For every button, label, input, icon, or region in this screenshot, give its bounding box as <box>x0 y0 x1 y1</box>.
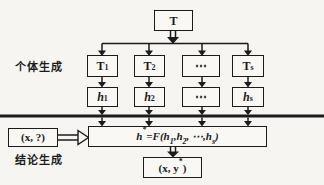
learner-2-subscript: 2 <box>151 95 155 103</box>
learner-1-subscript: 1 <box>104 95 108 103</box>
stage-label-individual-generation: 个体生成 <box>15 62 63 73</box>
subset-s-subscript: s <box>250 64 253 72</box>
trainer-to-learner-arrows <box>98 77 252 88</box>
learner-s-label: h <box>243 91 250 103</box>
learner-box-2: h2 <box>134 87 165 107</box>
subset-box-2: T2 <box>134 55 165 77</box>
input-sample-label: (x, ?) <box>21 132 45 143</box>
learner-ellipsis-label: ⋯ <box>195 91 207 103</box>
learner-box-s: hs <box>232 87 264 107</box>
subset-ellipsis-label: ⋯ <box>195 60 207 72</box>
learner-box-1: h1 <box>87 87 118 107</box>
branch-arrows <box>98 44 252 57</box>
subset-box-s: Ts <box>232 55 264 77</box>
output-prediction-box: (x, y*) <box>143 157 202 178</box>
subset-1-label: T <box>96 60 104 72</box>
subset-2-subscript: 2 <box>152 64 156 72</box>
subset-box-1: T1 <box>87 55 118 77</box>
learner-s-subscript: s <box>250 95 253 103</box>
learner-box-ellipsis: ⋯ <box>182 87 220 107</box>
training-set-label: T <box>169 15 177 27</box>
subset-2-label: T <box>143 60 151 72</box>
subset-s-label: T <box>242 60 250 72</box>
learner-2-label: h <box>144 91 151 103</box>
output-prediction-label: (x, y*) <box>159 161 187 174</box>
subset-1-subscript: 1 <box>105 64 109 72</box>
combiner-formula: h*=F(h1,h2, ⋯,hs) <box>136 129 219 145</box>
input-sample-box: (x, ?) <box>8 128 58 147</box>
learner-1-label: h <box>97 91 104 103</box>
ensemble-learning-diagram: T T1 T2 ⋯ Ts h1 h2 ⋯ hs h*=F(h1,h2, ⋯,hs… <box>0 0 324 185</box>
input-hollow-arrow <box>58 131 89 145</box>
combiner-formula-box: h*=F(h1,h2, ⋯,hs) <box>88 126 267 147</box>
combiner-output-double-arrow <box>167 147 179 158</box>
subset-box-ellipsis: ⋯ <box>182 55 220 77</box>
root-split-double-arrow <box>102 31 248 44</box>
stage-label-conclusion-generation: 结论生成 <box>15 155 63 166</box>
learner-to-boundary-arrows <box>98 107 252 115</box>
training-set-box: T <box>154 10 193 31</box>
